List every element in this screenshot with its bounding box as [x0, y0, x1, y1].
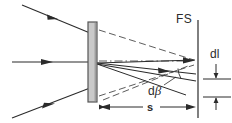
spot-size-dl-dimension [203, 64, 231, 110]
optical-diagram-figure: FS dl s dβ [0, 0, 232, 123]
distance-s-arrowhead-right [186, 104, 196, 110]
angle-label: dβ [148, 84, 161, 97]
lower-incoming-ray-arrowhead [42, 103, 55, 109]
dashed-ray-from-grating-top [99, 30, 194, 60]
distance-s-arrowhead-left [100, 104, 110, 110]
center-incoming-ray-arrowhead [41, 59, 53, 65]
incoming-rays-group [12, 5, 91, 118]
upper-incoming-ray-arrowhead [47, 15, 58, 20]
diffracted-rays-group [97, 57, 196, 95]
angle-label-d: d [148, 84, 155, 98]
dashed-crossing-ray [103, 66, 188, 100]
lower-incoming-ray [12, 88, 90, 118]
focal-screen-label: FS [176, 13, 192, 25]
d-beta-leader-line [164, 77, 176, 85]
distance-label: s [147, 102, 153, 113]
diffracted-ray-upper-arrowhead [183, 57, 195, 63]
angle-label-beta: β [155, 83, 161, 98]
diagram-vector-layer [0, 0, 232, 123]
diffracted-ray-upper [97, 60, 195, 63]
diffraction-grating-plate [88, 22, 97, 102]
grating-body [88, 22, 97, 102]
spot-size-label: dl [210, 48, 219, 60]
